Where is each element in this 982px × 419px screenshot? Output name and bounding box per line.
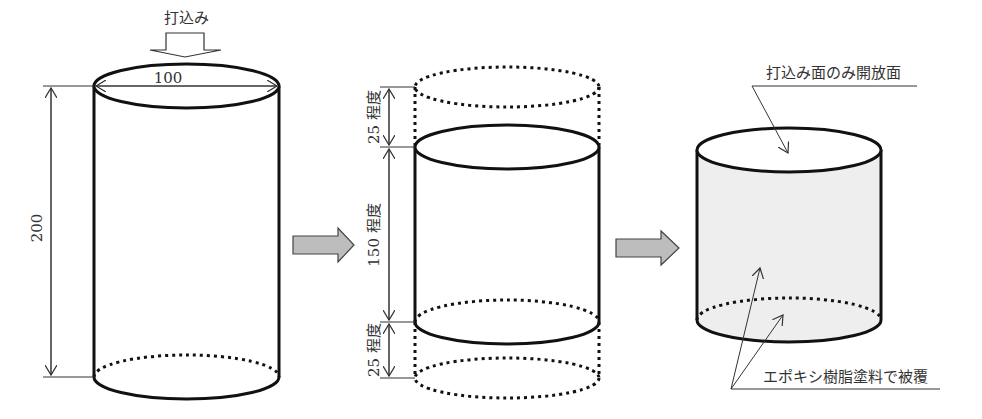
stage2-cylinder: 25 程度 150 程度 25 程度 [365,67,599,398]
middle-length-label: 150 程度 [365,203,383,266]
stage1-cylinder: 打込み 100 200 [28,9,279,399]
arrow-stage1-to-stage2-icon [293,228,354,262]
open-top-face [697,128,881,172]
open-face-label: 打込み面のみ開放面 [766,64,901,82]
stage3-cylinder: 打込み面のみ開放面 エポキシ樹脂塗料で被覆 [697,64,940,389]
top-trim-label: 25 程度 [365,90,383,144]
diagram-canvas: 打込み 100 200 [0,0,982,419]
pour-label: 打込み [164,9,209,27]
height-label: 200 [28,214,46,243]
coating-label: エポキシ樹脂塗料で被覆 [763,368,928,386]
diameter-label: 100 [154,69,183,87]
bottom-trim-label: 25 程度 [365,323,383,377]
trimmed-top-face [415,125,599,169]
arrow-stage2-to-stage3-icon [616,231,679,265]
pour-arrow-icon [150,33,221,57]
